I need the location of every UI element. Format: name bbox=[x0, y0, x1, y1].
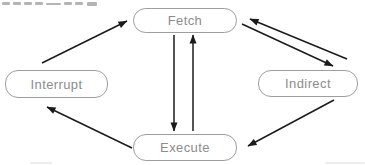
node-execute-label: Execute bbox=[160, 141, 210, 154]
node-interrupt: Interrupt bbox=[5, 70, 108, 98]
edge-interrupt-to-fetch bbox=[42, 21, 127, 63]
node-execute: Execute bbox=[133, 134, 237, 161]
scan-smudge bbox=[30, 162, 52, 164]
edge-execute-to-interrupt bbox=[47, 107, 132, 148]
node-fetch-label: Fetch bbox=[168, 14, 203, 27]
node-indirect-label: Indirect bbox=[285, 77, 331, 90]
node-fetch: Fetch bbox=[133, 8, 237, 33]
edge-fetch-to-indirect bbox=[242, 24, 333, 66]
scan-smudge bbox=[325, 162, 365, 164]
edge-indirect-to-execute bbox=[248, 100, 334, 146]
node-interrupt-label: Interrupt bbox=[30, 78, 82, 91]
instruction-cycle-diagram: Fetch Interrupt Indirect Execute bbox=[0, 0, 365, 165]
edge-indirect-to-fetch bbox=[250, 19, 347, 59]
node-indirect: Indirect bbox=[258, 70, 358, 97]
